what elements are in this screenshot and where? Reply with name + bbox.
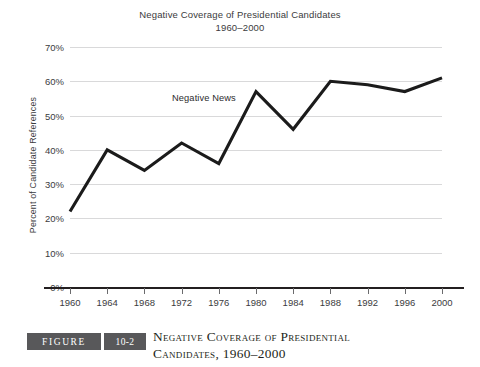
figure-caption: FIGURE 10-2 Negative Coverage of Preside… — [0, 328, 480, 367]
figure-badge-number: 10-2 — [104, 333, 146, 350]
x-tick-mark-1996 — [405, 288, 406, 294]
series-svg — [0, 0, 480, 325]
x-tick-mark-2000 — [442, 288, 443, 294]
x-tick-mark-1980 — [256, 288, 257, 294]
x-tick-mark-1976 — [219, 288, 220, 294]
x-tick-mark-1992 — [368, 288, 369, 294]
figure-badge-label: FIGURE — [27, 333, 101, 350]
caption-line-1: Negative Coverage of Presidential — [153, 329, 473, 346]
x-tick-mark-1972 — [182, 288, 183, 294]
chart-figure: Negative Coverage of Presidential Candid… — [0, 0, 480, 325]
negative-news-line — [70, 78, 442, 212]
figure-caption-text: Negative Coverage of Presidential Candid… — [153, 329, 473, 362]
x-tick-2000: 2000 — [419, 297, 465, 308]
x-tick-mark-1984 — [293, 288, 294, 294]
x-tick-mark-1988 — [330, 288, 331, 294]
caption-line-2: Candidates, 1960–2000 — [153, 346, 473, 363]
figure-badge: FIGURE 10-2 — [27, 333, 146, 350]
series-label-negative-news: Negative News — [172, 93, 236, 103]
x-tick-mark-1964 — [107, 288, 108, 294]
x-tick-mark-1968 — [144, 288, 145, 294]
x-tick-mark-1960 — [70, 288, 71, 294]
